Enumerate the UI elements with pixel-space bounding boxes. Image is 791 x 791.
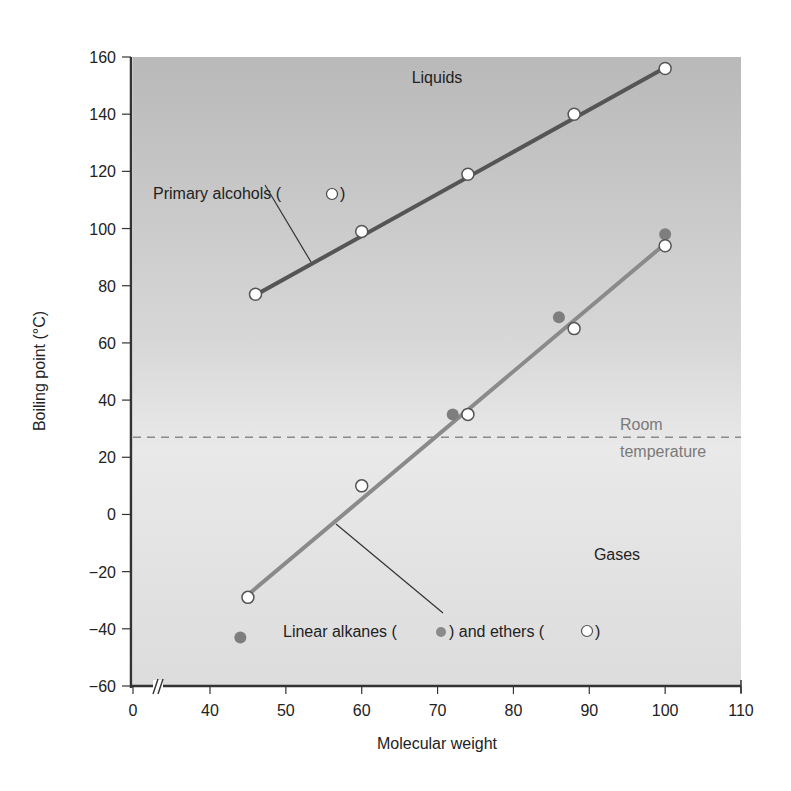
open-circle-icon xyxy=(327,189,338,200)
filled-circle-icon xyxy=(436,627,446,637)
y-tick-label: 140 xyxy=(89,106,116,123)
room-label-line2: temperature xyxy=(620,443,706,460)
svg-text:): ) xyxy=(595,623,600,640)
x-tick-label: 100 xyxy=(652,702,679,719)
boiling-point-chart: −60−40−20020406080100120140160 040506070… xyxy=(0,0,791,791)
data-point-open xyxy=(462,168,474,180)
y-tick-label: 120 xyxy=(89,163,116,180)
liquids-label: Liquids xyxy=(412,69,463,86)
x-tick-label: 50 xyxy=(277,702,295,719)
open-circle-icon xyxy=(582,626,593,637)
data-point-open xyxy=(659,240,671,252)
data-point-open xyxy=(356,225,368,237)
data-point-filled xyxy=(447,408,459,420)
x-tick-label: 80 xyxy=(505,702,523,719)
data-point-open xyxy=(250,288,262,300)
y-tick-label: 100 xyxy=(89,221,116,238)
axis-break-icon xyxy=(153,679,163,694)
ethers-label: ) and ethers ( xyxy=(449,623,545,640)
svg-text:): ) xyxy=(340,185,345,202)
y-axis-title: Boiling point (°C) xyxy=(31,311,48,431)
data-point-open xyxy=(568,323,580,335)
data-point-open xyxy=(659,62,671,74)
x-axis-title: Molecular weight xyxy=(377,735,498,752)
y-tick-label: 80 xyxy=(98,278,116,295)
x-tick-label: 0 xyxy=(129,702,138,719)
y-tick-label: 160 xyxy=(89,49,116,66)
data-point-open xyxy=(462,408,474,420)
data-point-filled xyxy=(659,228,671,240)
y-tick-label: 20 xyxy=(98,449,116,466)
data-point-open xyxy=(356,480,368,492)
x-tick-label: 70 xyxy=(429,702,447,719)
y-tick-label: 60 xyxy=(98,335,116,352)
x-tick-label: 90 xyxy=(580,702,598,719)
plot-area xyxy=(133,57,741,686)
y-tick-label: −20 xyxy=(89,564,116,581)
y-tick-label: 0 xyxy=(107,506,116,523)
x-tick-label: 110 xyxy=(728,702,754,719)
alcohols-label: Primary alcohols ( xyxy=(153,185,282,202)
data-point-open xyxy=(242,591,254,603)
gases-label: Gases xyxy=(594,546,640,563)
room-label-line1: Room xyxy=(620,416,663,433)
x-axis-ticks: 0405060708090100110 xyxy=(129,686,754,719)
data-point-filled xyxy=(234,631,246,643)
data-point-open xyxy=(568,108,580,120)
y-axis-ticks: −60−40−20020406080100120140160 xyxy=(89,49,131,695)
y-tick-label: −60 xyxy=(89,678,116,695)
data-point-filled xyxy=(553,311,565,323)
y-tick-label: 40 xyxy=(98,392,116,409)
y-tick-label: −40 xyxy=(89,621,116,638)
alkanes-label: Linear alkanes ( xyxy=(283,623,398,640)
x-tick-label: 40 xyxy=(201,702,219,719)
x-tick-label: 60 xyxy=(353,702,371,719)
